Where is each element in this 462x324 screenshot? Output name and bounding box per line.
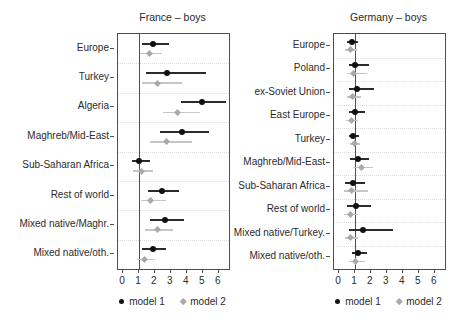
model1-point	[162, 217, 168, 223]
model1-point	[355, 156, 361, 162]
x-tick-label: 5	[196, 275, 208, 286]
category-tick	[326, 186, 330, 187]
gridline	[118, 152, 229, 153]
category-tick	[326, 162, 330, 163]
model2-diamond-icon	[180, 298, 186, 304]
ci-line-model1	[146, 72, 206, 74]
gridline	[334, 105, 445, 106]
model2-point	[147, 197, 154, 204]
x-tick-label: 1	[132, 275, 144, 286]
gridline	[118, 122, 229, 123]
legend-item-model2: model 2	[181, 296, 226, 307]
gridline	[334, 81, 445, 82]
model1-point	[354, 86, 360, 92]
category-label: East Europe	[221, 109, 325, 121]
model2-point	[351, 140, 358, 147]
model1-circle-icon	[335, 299, 340, 304]
x-tick-label: 3	[164, 275, 176, 286]
reference-line	[355, 34, 356, 269]
x-tick	[186, 269, 187, 273]
category-tick	[110, 195, 114, 196]
x-tick	[202, 269, 203, 273]
model1-point	[355, 250, 361, 256]
model1-point	[179, 129, 185, 135]
model2-point	[174, 109, 181, 116]
gridline	[118, 181, 229, 182]
legend-model1-label: model 1	[129, 296, 165, 307]
category-label: Turkey	[221, 133, 325, 145]
panel-title-france: France – boys	[117, 11, 228, 23]
x-tick	[338, 269, 339, 273]
ci-line-model1	[349, 88, 374, 90]
model1-point	[352, 109, 358, 115]
gridline	[334, 152, 445, 153]
category-label: Algeria	[5, 100, 109, 112]
x-tick-label: 6	[428, 275, 440, 286]
gridline	[118, 93, 229, 94]
category-label: Europe	[221, 39, 325, 51]
legend-france: model 1 model 2	[107, 296, 238, 307]
gridline	[118, 240, 229, 241]
model2-point	[347, 46, 354, 53]
category-label: Mixed native/Maghr.	[5, 218, 109, 230]
model1-point	[150, 246, 156, 252]
model1-point	[164, 70, 170, 76]
plot-box	[333, 33, 446, 270]
x-tick	[138, 269, 139, 273]
x-tick	[170, 269, 171, 273]
category-tick	[326, 68, 330, 69]
x-tick-label: 0	[116, 275, 128, 286]
legend-model2-label: model 2	[406, 296, 442, 307]
model2-point	[347, 117, 354, 124]
model2-point	[351, 258, 358, 265]
model1-point	[199, 99, 205, 105]
category-tick	[110, 136, 114, 137]
model2-point	[146, 50, 153, 57]
category-tick	[326, 115, 330, 116]
x-tick	[154, 269, 155, 273]
plot-box	[117, 33, 230, 270]
category-tick	[326, 92, 330, 93]
category-label: Rest of world	[221, 203, 325, 215]
x-tick	[354, 269, 355, 273]
category-tick	[326, 209, 330, 210]
gridline	[118, 210, 229, 211]
gridline	[334, 199, 445, 200]
reference-line	[139, 34, 140, 269]
legend-model1-label: model 1	[345, 296, 381, 307]
forest-plot-figure: France – boys Germany – boys EuropeTurke…	[0, 0, 462, 324]
legend-model2-label: model 2	[190, 296, 226, 307]
x-tick	[218, 269, 219, 273]
category-label: Sub-Saharan Africa	[5, 159, 109, 171]
gridline	[334, 246, 445, 247]
model1-circle-icon	[119, 299, 124, 304]
gridline	[334, 128, 445, 129]
model1-point	[150, 41, 156, 47]
category-tick	[326, 139, 330, 140]
x-tick-label: 2	[148, 275, 160, 286]
x-tick-label: 2	[364, 275, 376, 286]
category-tick	[326, 45, 330, 46]
x-tick-label: 3	[380, 275, 392, 286]
gridline	[334, 222, 445, 223]
x-tick	[418, 269, 419, 273]
panel-title-germany: Germany – boys	[333, 11, 444, 23]
model2-point	[358, 164, 365, 171]
x-tick-label: 0	[332, 275, 344, 286]
x-tick	[402, 269, 403, 273]
category-tick	[110, 165, 114, 166]
category-label: Maghreb/Mid-East	[5, 130, 109, 142]
category-tick	[110, 48, 114, 49]
category-label: Maghreb/Mid-East	[221, 156, 325, 168]
category-tick	[110, 77, 114, 78]
x-tick-label: 4	[396, 275, 408, 286]
model2-diamond-icon	[396, 298, 402, 304]
category-label: Poland	[221, 62, 325, 74]
legend-germany: model 1 model 2	[323, 296, 454, 307]
model1-point	[159, 188, 165, 194]
model1-point	[360, 227, 366, 233]
category-label: Sub-Saharan Africa	[221, 180, 325, 192]
ci-line-model1	[349, 229, 394, 231]
model1-point	[349, 39, 355, 45]
model2-point	[163, 138, 170, 145]
